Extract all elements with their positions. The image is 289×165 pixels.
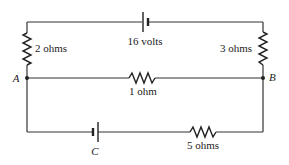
resistor-bottom-label: 5 ohms	[187, 139, 219, 151]
battery-bottom-icon	[93, 122, 98, 142]
resistor-right-icon	[259, 32, 267, 65]
node-a-dot	[25, 76, 29, 80]
resistor-right-label: 3 ohms	[220, 42, 252, 54]
circuit-diagram: 16 volts 2 ohms 3 ohms 1 ohm A B C 5 ohm…	[0, 0, 289, 165]
battery-bottom-label: C	[91, 145, 99, 157]
node-b-label: B	[269, 71, 276, 83]
resistor-bottom-icon	[190, 127, 216, 137]
battery-top-label: 16 volts	[127, 35, 162, 47]
resistor-left-label: 2 ohms	[35, 42, 67, 54]
resistor-middle-icon	[129, 73, 155, 83]
resistor-middle-label: 1 ohm	[129, 85, 157, 97]
resistor-left-icon	[23, 33, 31, 65]
node-b-dot	[261, 76, 265, 80]
node-a-label: A	[12, 72, 20, 84]
battery-top-icon	[143, 12, 148, 32]
